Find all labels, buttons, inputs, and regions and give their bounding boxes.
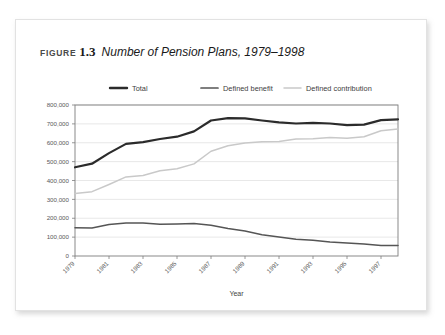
data-series	[75, 118, 398, 245]
gridlines	[72, 105, 398, 256]
legend-label: Defined benefit	[223, 84, 273, 93]
legend-label: Total	[132, 84, 148, 93]
x-tick-label: 1979	[61, 259, 76, 274]
pension-plans-line-chart: TotalDefined benefitDefined contribution…	[16, 20, 428, 312]
x-axis-ticks	[75, 256, 381, 259]
series-line	[75, 223, 398, 245]
x-tick-label: 1993	[299, 259, 314, 274]
x-tick-label: 1995	[333, 259, 348, 274]
y-tick-label: 100,000	[47, 233, 70, 240]
y-tick-label: 300,000	[47, 196, 70, 203]
x-axis-labels: 1979198119831985198719891991199319951997	[61, 259, 382, 274]
legend: TotalDefined benefitDefined contribution	[110, 84, 372, 93]
x-tick-label: 1987	[197, 259, 212, 274]
x-tick-label: 1991	[265, 259, 280, 274]
x-tick-label: 1989	[231, 259, 246, 274]
figure-card: Figure1.3Number of Pension Plans, 1979–1…	[15, 19, 427, 311]
y-tick-label: 0	[66, 252, 70, 259]
x-tick-label: 1983	[129, 259, 144, 274]
x-tick-label: 1997	[367, 259, 382, 274]
y-axis-labels: 0100,000200,000300,000400,000500,000600,…	[47, 101, 70, 259]
series-line	[75, 129, 398, 194]
x-tick-label: 1985	[163, 259, 178, 274]
y-tick-label: 200,000	[47, 214, 70, 221]
legend-label: Defined contribution	[306, 84, 372, 93]
x-tick-label: 1981	[95, 259, 110, 274]
y-tick-label: 600,000	[47, 139, 70, 146]
x-axis-title: Year	[229, 290, 244, 297]
y-tick-label: 500,000	[47, 158, 70, 165]
y-tick-label: 800,000	[47, 101, 70, 108]
y-tick-label: 400,000	[47, 177, 70, 184]
y-tick-label: 700,000	[47, 120, 70, 127]
